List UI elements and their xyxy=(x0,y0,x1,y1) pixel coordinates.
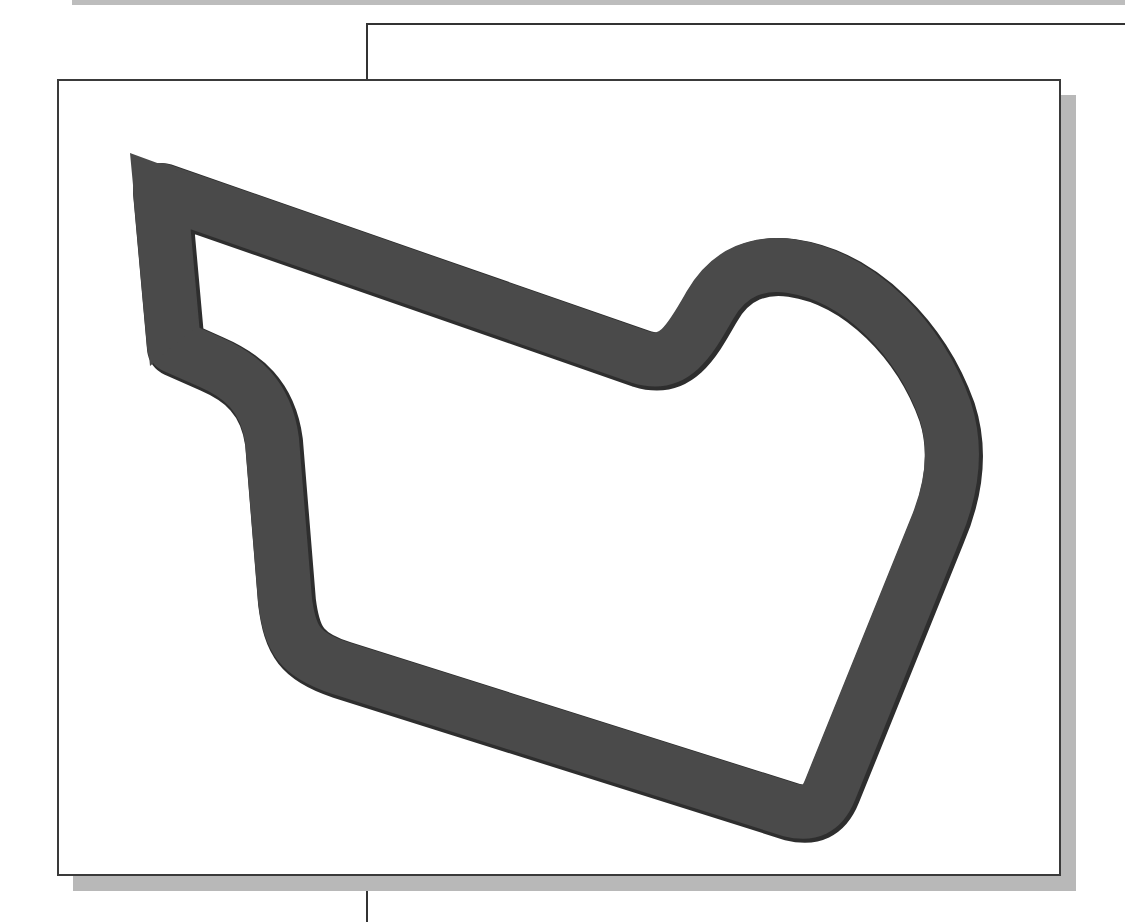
extruded-loop-shape xyxy=(0,0,1125,922)
loop-body xyxy=(160,190,952,812)
